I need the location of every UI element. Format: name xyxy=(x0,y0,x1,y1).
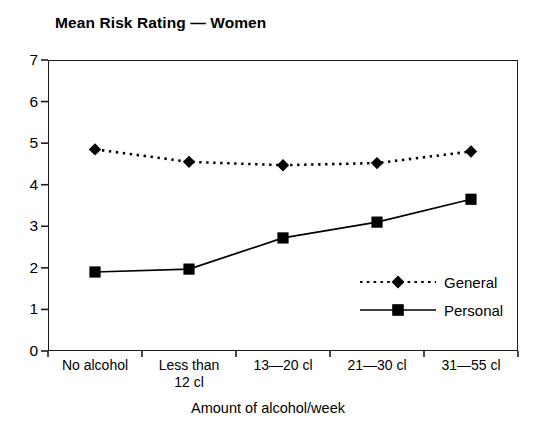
x-axis-title: Amount of alcohol/week xyxy=(0,400,536,416)
legend-entry-general: General xyxy=(358,270,508,294)
chart-figure: Mean Risk Rating — Women 01234567 No alc… xyxy=(0,0,536,425)
y-axis-tick-label: 5 xyxy=(16,135,38,151)
x-axis: No alcoholLess than 12 cl13—20 cl21—30 c… xyxy=(0,357,536,397)
chart-legend: General Personal xyxy=(358,270,508,326)
x-axis-tick-label: 31—55 cl xyxy=(409,357,533,374)
legend-swatch-general xyxy=(358,270,438,294)
legend-label-general: General xyxy=(444,274,497,291)
chart-title: Mean Risk Rating — Women xyxy=(55,14,266,32)
legend-label-personal: Personal xyxy=(444,302,503,319)
y-axis-tick-label: 7 xyxy=(16,52,38,68)
legend-entry-personal: Personal xyxy=(358,298,508,322)
y-axis-tick-label: 4 xyxy=(16,177,38,193)
y-axis-tick-label: 3 xyxy=(16,219,38,235)
y-axis-tick-label: 1 xyxy=(16,302,38,318)
y-axis-tick-label: 2 xyxy=(16,260,38,276)
legend-swatch-personal xyxy=(358,298,438,322)
y-axis-tick-label: 6 xyxy=(16,94,38,110)
